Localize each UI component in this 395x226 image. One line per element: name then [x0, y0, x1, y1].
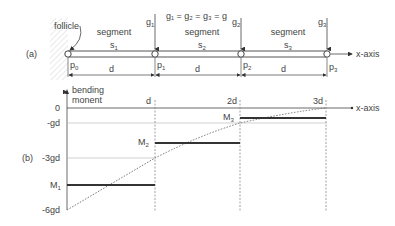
force-equation: g₁ = g₂ = g₃ = g: [166, 11, 227, 21]
moment-label-m2: M2: [138, 137, 149, 150]
y-axis-arrowhead: [65, 89, 69, 94]
segment-label-s2: segment s2: [180, 27, 224, 53]
x-tick-d: d: [146, 96, 151, 106]
x-tick-3d: 3d: [313, 96, 323, 106]
x-tick-2d: 2d: [227, 96, 237, 106]
x-axis-label-b: x-axis: [356, 103, 380, 113]
dimension-label-2: d: [195, 64, 200, 74]
force-label-g2: g2: [232, 17, 240, 30]
dimension-label-3: d: [281, 64, 286, 74]
point-label-p0: p0: [70, 60, 78, 73]
follicle-label: follicle: [54, 21, 79, 31]
y-tick-minus-3gd: -3gd: [30, 153, 60, 163]
moment-label-m1: M1: [50, 180, 61, 193]
point-label-p2: p2: [243, 60, 251, 73]
force-label-g3: g3: [318, 17, 326, 30]
point-label-p1: p1: [157, 60, 165, 73]
force-label-g1: g1: [146, 17, 154, 30]
segment-label-s1: segment s1: [92, 27, 136, 53]
panel-b-graphics: [65, 89, 352, 212]
joint-p2: [238, 51, 244, 57]
y-axis-title: bending monent: [72, 85, 104, 105]
y-tick-0: 0: [30, 103, 60, 113]
panel-a-label: (a): [26, 49, 37, 59]
point-label-p3: p3: [329, 62, 337, 75]
joint-p0: [65, 51, 71, 57]
segment-label-s3: segment s3: [266, 27, 310, 53]
dimension-label-1: d: [109, 64, 114, 74]
y-tick-minus-gd: -gd: [30, 118, 60, 128]
joint-p3: [324, 51, 330, 57]
y-tick-minus-6gd: -6gd: [30, 205, 60, 215]
moment-label-m3: M3: [223, 112, 234, 125]
joint-p1: [152, 51, 158, 57]
x-axis-label-a: x-axis: [356, 49, 380, 59]
